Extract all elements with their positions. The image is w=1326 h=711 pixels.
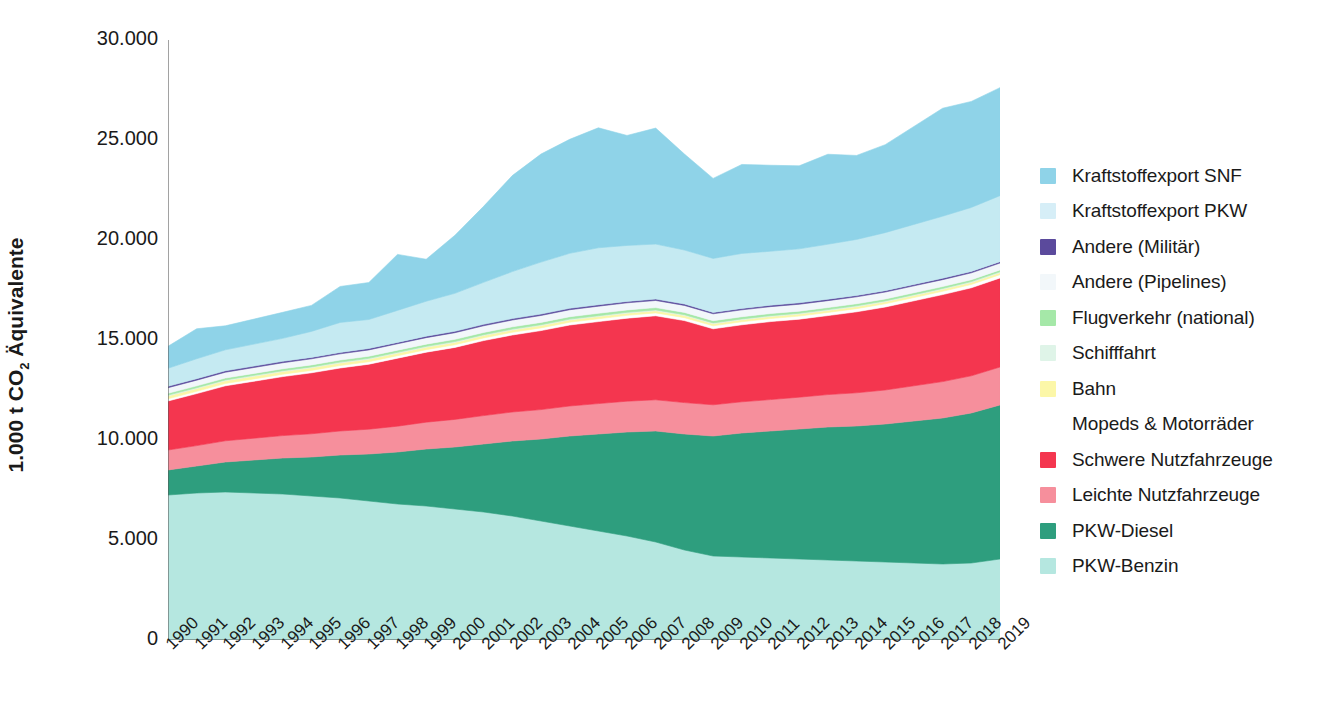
- y-tick-label: 5.000: [108, 527, 158, 550]
- legend-swatch-icon: [1040, 452, 1056, 468]
- x-tick-label: 2019: [994, 613, 1035, 654]
- y-tick-label: 30.000: [97, 27, 158, 50]
- legend-label: Mopeds & Motorräder: [1072, 413, 1254, 435]
- y-axis-title-pre: 1.000 t CO: [4, 370, 27, 473]
- stacked-area-svg: [168, 40, 1000, 640]
- chart-plot-area: [168, 40, 1000, 640]
- y-axis-title-post: Äquivalente: [4, 238, 27, 363]
- chart-legend: Kraftstoffexport SNFKraftstoffexport PKW…: [1040, 158, 1326, 584]
- legend-label: Andere (Militär): [1072, 236, 1200, 258]
- legend-label: Kraftstoffexport SNF: [1072, 165, 1242, 187]
- y-tick-label: 25.000: [97, 127, 158, 150]
- y-tick-label: 10.000: [97, 427, 158, 450]
- y-axis-title-subscript: 2: [17, 362, 32, 369]
- legend-swatch-icon: [1040, 168, 1056, 184]
- legend-label: Kraftstoffexport PKW: [1072, 200, 1247, 222]
- chart-page: 1.000 t CO2 Äquivalente 05.00010.00015.0…: [0, 0, 1326, 711]
- legend-item[interactable]: Mopeds & Motorräder: [1040, 407, 1326, 443]
- legend-label: PKW-Diesel: [1072, 520, 1173, 542]
- legend-item[interactable]: Bahn: [1040, 371, 1326, 407]
- legend-item[interactable]: Leichte Nutzfahrzeuge: [1040, 478, 1326, 514]
- legend-swatch-icon: [1040, 381, 1056, 397]
- legend-item[interactable]: Kraftstoffexport SNF: [1040, 158, 1326, 194]
- legend-item[interactable]: Andere (Pipelines): [1040, 265, 1326, 301]
- legend-swatch-icon: [1040, 487, 1056, 503]
- legend-swatch-icon: [1040, 345, 1056, 361]
- legend-label: Flugverkehr (national): [1072, 307, 1255, 329]
- legend-swatch-icon: [1040, 558, 1056, 574]
- legend-item[interactable]: Andere (Militär): [1040, 229, 1326, 265]
- y-tick-label: 0: [147, 627, 158, 650]
- legend-label: Schifffahrt: [1072, 342, 1156, 364]
- legend-swatch-icon: [1040, 310, 1056, 326]
- legend-label: Schwere Nutzfahrzeuge: [1072, 449, 1273, 471]
- legend-swatch-icon: [1040, 523, 1056, 539]
- legend-item[interactable]: PKW-Diesel: [1040, 513, 1326, 549]
- legend-label: PKW-Benzin: [1072, 555, 1178, 577]
- legend-swatch-icon: [1040, 274, 1056, 290]
- legend-item[interactable]: Schifffahrt: [1040, 336, 1326, 372]
- legend-item[interactable]: Flugverkehr (national): [1040, 300, 1326, 336]
- x-axis-tick-labels: 1990199119921993199419951996199719981999…: [168, 640, 1008, 710]
- y-tick-label: 20.000: [97, 227, 158, 250]
- y-axis-title: 1.000 t CO2 Äquivalente: [4, 238, 31, 473]
- y-tick-label: 15.000: [97, 327, 158, 350]
- legend-label: Leichte Nutzfahrzeuge: [1072, 484, 1260, 506]
- legend-swatch-icon: [1040, 203, 1056, 219]
- legend-label: Andere (Pipelines): [1072, 271, 1227, 293]
- legend-item[interactable]: PKW-Benzin: [1040, 549, 1326, 585]
- legend-swatch-icon: [1040, 416, 1056, 432]
- legend-swatch-icon: [1040, 239, 1056, 255]
- legend-label: Bahn: [1072, 378, 1116, 400]
- legend-item[interactable]: Schwere Nutzfahrzeuge: [1040, 442, 1326, 478]
- legend-item[interactable]: Kraftstoffexport PKW: [1040, 194, 1326, 230]
- y-axis-tick-labels: 05.00010.00015.00020.00025.00030.000: [38, 0, 158, 711]
